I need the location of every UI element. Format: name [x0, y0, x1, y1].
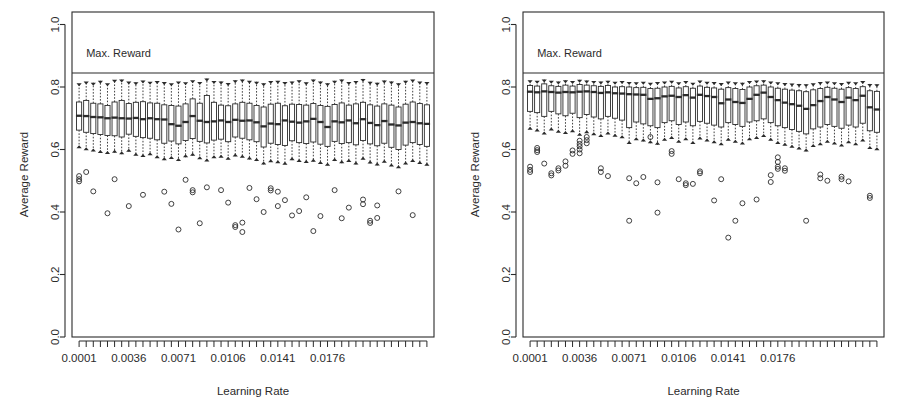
boxplot-item [739, 83, 745, 206]
whisker-cap-upper [417, 81, 422, 84]
whisker-cap-lower [147, 152, 152, 155]
boxplot-item [598, 81, 604, 174]
box [669, 86, 674, 120]
x-tick-label: 0.0001 [512, 352, 547, 364]
whisker-cap-upper [318, 81, 323, 84]
boxplot-item [204, 79, 210, 190]
whisker-cap-lower [403, 162, 408, 165]
x-tick-label: 0.0106 [661, 352, 696, 364]
whisker-cap-lower [527, 127, 532, 130]
whisker-cap-lower [712, 140, 717, 143]
boxplot-item [534, 81, 540, 155]
outlier-point [275, 189, 280, 194]
whisker-cap-upper [719, 83, 724, 86]
outlier-point [577, 151, 582, 156]
box [254, 105, 259, 141]
y-axis-title: Average Reward [469, 132, 481, 217]
box [641, 87, 646, 124]
boxplot-item [289, 81, 295, 218]
box [549, 86, 554, 112]
whisker-cap-upper [563, 80, 568, 83]
boxplot-item [668, 81, 674, 157]
outlier-point [410, 213, 415, 218]
boxplot-series [76, 79, 430, 235]
whisker-cap-upper [183, 82, 188, 85]
boxplot-item [346, 82, 352, 210]
whisker-cap-upper [169, 83, 174, 86]
boxplot-item [626, 82, 632, 223]
boxplot-item [331, 81, 337, 193]
whisker-cap-lower [247, 157, 252, 160]
whisker-cap-upper [874, 84, 879, 87]
boxplot-item [782, 83, 788, 173]
boxplot-item [838, 83, 844, 182]
outlier-point [605, 174, 610, 179]
box [804, 92, 809, 134]
box [368, 105, 373, 144]
outlier-point [712, 198, 717, 203]
box [105, 105, 110, 135]
box [382, 104, 387, 143]
whisker-cap-lower [754, 136, 759, 139]
whisker-cap-lower [634, 137, 639, 140]
whisker-cap-lower [190, 153, 195, 156]
whisker-cap-lower [240, 155, 245, 158]
whisker-cap-upper [804, 84, 809, 87]
boxplot-item [367, 82, 373, 226]
whisker-cap-lower [289, 157, 294, 160]
whisker-cap-upper [403, 81, 408, 84]
whisker-cap-upper [768, 81, 773, 84]
whisker-cap-lower [155, 155, 160, 158]
outlier-point [275, 204, 280, 209]
outlier-point [91, 189, 96, 194]
whisker-cap-upper [325, 83, 330, 86]
y-tick-label: 0.8 [49, 79, 61, 95]
whisker-cap-upper [782, 83, 787, 86]
outlier-point [655, 180, 660, 185]
whisker-cap-lower [874, 147, 879, 150]
whisker-cap-upper [867, 84, 872, 87]
whisker-cap-upper [641, 82, 646, 85]
whisker-cap-upper [289, 81, 294, 84]
box [91, 103, 96, 133]
outlier-point [818, 176, 823, 181]
outlier-point [627, 218, 632, 223]
outlier-point [84, 170, 89, 175]
whisker-cap-lower [627, 141, 632, 144]
whisker-cap-upper [176, 81, 181, 84]
whisker-cap-lower [332, 158, 337, 161]
whisker-cap-upper [332, 81, 337, 84]
box [825, 87, 830, 124]
whisker-cap-lower [818, 142, 823, 145]
whisker-cap-upper [549, 81, 554, 84]
box [726, 88, 731, 123]
boxplot-item [360, 79, 366, 207]
outlier-point [570, 151, 575, 156]
box [304, 105, 309, 143]
outlier-point [768, 173, 773, 178]
whisker-cap-lower [804, 148, 809, 151]
x-tick-label: 0.0176 [310, 352, 345, 364]
whisker-cap-upper [368, 82, 373, 85]
boxplot-item [824, 81, 830, 183]
boxplot-series [527, 80, 880, 241]
box [846, 88, 851, 126]
box [155, 103, 160, 140]
boxplot-panel-right: 0.00.20.40.60.81.0Average Reward0.00010.… [450, 0, 901, 419]
outlier-point [282, 198, 287, 203]
boxplot-item [310, 80, 316, 234]
outlier-point [375, 203, 380, 208]
boxplot-item [831, 82, 837, 144]
boxplot-item [853, 82, 859, 145]
boxplot-item [775, 82, 781, 171]
boxplot-item [296, 80, 302, 213]
outlier-point [768, 180, 773, 185]
whisker-cap-upper [690, 83, 695, 86]
boxplot-item [796, 84, 802, 150]
whisker-cap-lower [860, 138, 865, 141]
box [733, 89, 738, 125]
whisker-cap-upper [542, 80, 547, 83]
outlier-point [126, 204, 131, 209]
whisker-cap-upper [825, 81, 830, 84]
whisker-cap-upper [619, 81, 624, 84]
